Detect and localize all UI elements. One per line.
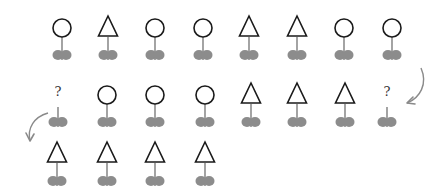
- curved-arrow-right-icon: [407, 68, 424, 104]
- curved-arrow-left-icon: [26, 113, 48, 141]
- arrows-layer: [0, 0, 445, 192]
